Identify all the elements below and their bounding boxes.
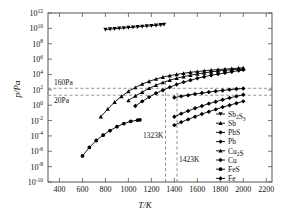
y-tick-label-8: 108 xyxy=(32,38,43,49)
x-tick-label-1200: 1200 xyxy=(143,185,159,194)
data-point xyxy=(172,115,176,119)
y-axis-label: p/Pa xyxy=(12,74,22,104)
y-tick-label--10: 10-10 xyxy=(28,177,44,188)
data-point xyxy=(129,119,133,123)
legend-label-FeS: FeS xyxy=(228,165,240,174)
chart-canvas: 4006008001000120014001600180020002200101… xyxy=(0,0,290,220)
data-point xyxy=(207,90,211,94)
data-point xyxy=(181,80,185,84)
chart-figure: 4006008001000120014001600180020002200101… xyxy=(0,0,290,220)
data-point xyxy=(179,111,183,115)
x-tick-label-1000: 1000 xyxy=(120,185,136,194)
y-tick-label--4: 10-4 xyxy=(30,130,43,141)
y-tick-label-2: 102 xyxy=(32,84,43,95)
legend: Sb2S3SbPbSPbCu2SCuFeSFe xyxy=(216,110,246,183)
series-Sb2S3 xyxy=(103,23,166,32)
data-point xyxy=(218,130,222,134)
annotation-160Pa: 160Pa xyxy=(54,78,73,87)
data-point xyxy=(218,158,222,162)
data-point xyxy=(94,139,98,143)
data-point xyxy=(218,139,222,143)
data-point xyxy=(207,110,211,114)
data-point xyxy=(241,99,245,103)
series-FeS xyxy=(81,118,142,158)
data-point xyxy=(193,106,197,110)
data-point xyxy=(126,89,130,93)
series-Sb xyxy=(126,67,245,103)
x-tick-label-1400: 1400 xyxy=(166,185,182,194)
data-point xyxy=(195,76,199,80)
data-point xyxy=(186,93,190,97)
data-point xyxy=(161,88,165,92)
data-point xyxy=(115,125,119,129)
data-point xyxy=(207,101,211,105)
data-point xyxy=(220,98,224,102)
data-point xyxy=(241,93,245,97)
data-point xyxy=(87,146,91,150)
data-point xyxy=(200,91,204,95)
data-point xyxy=(138,118,142,122)
data-point xyxy=(81,154,85,158)
data-point xyxy=(174,82,178,86)
data-point xyxy=(218,176,222,180)
data-point xyxy=(234,101,238,105)
annotation-1423K: 1423K xyxy=(179,155,200,164)
legend-label-Pb: Pb xyxy=(228,137,236,146)
data-point xyxy=(241,86,245,90)
x-tick-label-600: 600 xyxy=(76,185,88,194)
data-point xyxy=(133,85,137,89)
y-tick-label--6: 10-6 xyxy=(30,146,43,157)
data-point xyxy=(140,90,144,94)
data-point xyxy=(220,105,224,109)
annotation-1323K: 1323K xyxy=(143,131,164,140)
data-point xyxy=(200,104,204,108)
legend-label-Cu: Cu xyxy=(228,156,237,165)
data-point xyxy=(214,100,218,104)
y-tick-label-10: 1010 xyxy=(30,23,44,34)
legend-label-Sb: Sb xyxy=(228,119,236,128)
data-point xyxy=(101,133,105,137)
annotation-20Pa: 20Pa xyxy=(54,96,70,105)
data-point xyxy=(200,112,204,116)
x-tick-label-800: 800 xyxy=(99,185,111,194)
x-tick-label-1800: 1800 xyxy=(212,185,228,194)
y-tick-label-4: 104 xyxy=(32,69,43,80)
data-point xyxy=(188,78,192,82)
data-point xyxy=(122,122,126,126)
data-point xyxy=(172,123,176,127)
series-line xyxy=(82,120,139,156)
y-tick-label--2: 10-2 xyxy=(30,115,43,126)
data-point xyxy=(179,120,183,124)
y-tick-label-12: 1012 xyxy=(30,8,44,19)
legend-label-Fe: Fe xyxy=(228,174,236,183)
data-point xyxy=(227,103,231,107)
data-point xyxy=(202,75,206,79)
data-point xyxy=(220,88,224,92)
data-point xyxy=(133,94,137,98)
data-point xyxy=(193,115,197,119)
data-point xyxy=(186,117,190,121)
x-axis-label: T/K xyxy=(0,200,290,210)
data-point xyxy=(172,95,176,99)
data-point xyxy=(227,96,231,100)
data-point xyxy=(219,167,223,171)
y-tick-label-0: 100 xyxy=(32,100,43,111)
series-Cu2S xyxy=(99,66,246,119)
x-tick-label-2000: 2000 xyxy=(235,185,251,194)
data-point xyxy=(108,129,112,133)
y-tick-label-6: 106 xyxy=(32,54,43,65)
data-point xyxy=(214,89,218,93)
x-tick-label-2200: 2200 xyxy=(258,185,274,194)
x-tick-label-400: 400 xyxy=(53,185,65,194)
data-point xyxy=(214,107,218,111)
series-line xyxy=(101,68,243,117)
y-tick-label--8: 10-8 xyxy=(30,161,43,172)
data-point xyxy=(186,109,190,113)
x-tick-label-1600: 1600 xyxy=(189,185,205,194)
data-point xyxy=(234,87,238,91)
legend-label-PbS: PbS xyxy=(228,128,240,137)
